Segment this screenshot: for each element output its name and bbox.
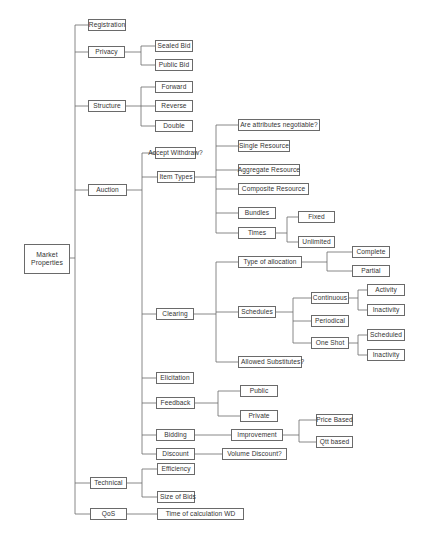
node-inactivity-one-shot: Inactivity (367, 349, 405, 361)
root-node-market-properties: Market Properties (24, 244, 70, 274)
market-properties-tree-diagram: Market Properties Registration Privacy S… (0, 0, 428, 536)
node-efficiency: Efficiency (157, 463, 195, 475)
node-inactivity-continuous: Inactivity (367, 304, 405, 316)
node-auction: Auction (88, 184, 127, 196)
node-type-of-allocation: Type of allocation (238, 256, 302, 268)
node-continuous: Continuous (311, 292, 349, 304)
node-one-shot: One Shot (311, 337, 349, 349)
node-sealed-bid: Sealed Bid (155, 40, 193, 52)
node-feedback-public: Public (240, 385, 278, 397)
node-feedback: Feedback (156, 397, 195, 409)
node-periodical: Periodical (311, 315, 349, 327)
node-allowed-substitutes: Allowed Substitutes? (238, 356, 302, 368)
node-registration: Registration (88, 19, 126, 31)
node-composite-resource: Composite Resource (238, 183, 309, 195)
node-bidding: Bidding (156, 429, 195, 441)
node-schedules: Schedules (238, 306, 276, 318)
node-activity: Activity (367, 284, 405, 296)
node-forward: Forward (155, 81, 193, 93)
node-discount: Discount (156, 448, 195, 460)
node-public-bid: Public Bid (155, 59, 193, 71)
node-unlimited: Unlimited (298, 236, 335, 248)
node-qtt-based: Qtt based (316, 436, 353, 448)
node-times: Times (238, 227, 276, 239)
node-clearing: Clearing (156, 308, 194, 320)
node-feedback-private: Private (240, 410, 278, 422)
node-complete: Complete (352, 246, 390, 258)
node-price-based: Price Based (316, 414, 353, 426)
node-single-resource: Single Resource (238, 140, 290, 152)
node-scheduled: Scheduled (367, 329, 405, 341)
node-qos: QoS (90, 508, 127, 520)
node-attributes-negotiable: Are attributes negotiable? (238, 119, 320, 131)
node-accept-withdraw: Accept Withdraw? (155, 147, 196, 159)
node-size-of-bids: Size of Bids (157, 491, 195, 503)
node-improvement: Improvement (231, 429, 283, 441)
node-time-of-calculation: Time of calculation WD (157, 508, 244, 520)
node-double: Double (155, 120, 193, 132)
node-reverse: Reverse (155, 100, 193, 112)
node-aggregate-resource: Aggregate Resource (238, 164, 300, 176)
node-volume-discount: Volume Discount? (222, 448, 287, 460)
node-bundles: Bundles (238, 207, 276, 219)
node-partial: Partial (352, 265, 390, 277)
node-elicitation: Elicitation (156, 372, 194, 384)
node-fixed: Fixed (298, 211, 335, 223)
node-technical: Technical (90, 477, 127, 489)
node-privacy: Privacy (88, 46, 125, 58)
node-structure: Structure (88, 100, 126, 112)
node-item-types: Item Types (157, 171, 195, 183)
